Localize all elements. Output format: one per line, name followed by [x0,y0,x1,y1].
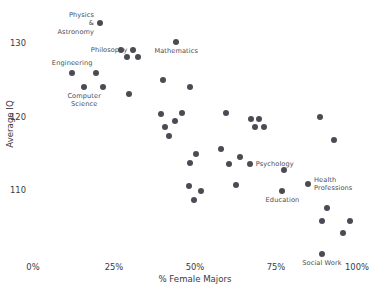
y-axis-label: Average IQ [5,94,15,154]
data-point [319,218,325,224]
scatter-chart: Physics & AstronomyPhilosophyMathematics… [0,0,371,289]
data-point [193,151,199,157]
data-point [186,183,192,189]
data-point [340,230,346,236]
data-point [173,39,179,45]
data-point [191,197,197,203]
point-label: Mathematics [154,47,198,55]
data-point [319,251,325,257]
point-label: Engineering [52,59,93,67]
x-axis-label: % Female Majors [158,274,231,284]
data-point [331,137,337,143]
x-tick-label: 50% [186,262,205,272]
data-point [256,116,262,122]
data-point [166,133,172,139]
x-tick-label: 0% [26,262,39,272]
y-tick-label: 110 [10,185,26,195]
point-label: Education [266,196,300,204]
data-point [162,124,168,130]
data-point [233,182,239,188]
data-point [187,84,193,90]
data-point [179,110,185,116]
point-label: Health Professions [314,176,352,192]
data-point [223,110,229,116]
data-point [130,47,136,53]
data-point [252,124,258,130]
data-point [198,188,204,194]
data-point [81,84,87,90]
data-point [172,118,178,124]
data-point [97,20,103,26]
data-point [279,188,285,194]
data-point [226,161,232,167]
data-point [247,161,253,167]
x-tick-label: 75% [267,262,286,272]
data-point [317,114,323,120]
data-point [305,181,311,187]
point-label: Computer Science [67,92,101,108]
data-point [135,54,141,60]
data-point [69,70,75,76]
data-point [158,111,164,117]
point-label: Physics & Astronomy [57,11,94,36]
point-label: Philosophy [91,46,128,54]
data-point [93,70,99,76]
plot-area: Physics & AstronomyPhilosophyMathematics… [0,0,371,289]
data-point [187,160,193,166]
x-tick-label: 25% [105,262,124,272]
x-tick-label: 100% [345,262,369,272]
data-point [237,154,243,160]
data-point [261,124,267,130]
point-label: Social Work [302,259,341,267]
data-point [160,77,166,83]
data-point [324,205,330,211]
data-point [218,146,224,152]
data-point [347,218,353,224]
y-tick-label: 130 [10,38,26,48]
data-point [124,54,130,60]
data-point [248,116,254,122]
data-point [126,91,132,97]
data-point [281,167,287,173]
point-label: Psychology [256,159,294,167]
data-point [100,84,106,90]
